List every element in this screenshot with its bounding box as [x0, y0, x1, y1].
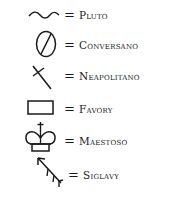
equals-sign: = — [64, 7, 75, 22]
cross-diagonal-icon — [30, 62, 54, 92]
legend-label-text: Favory — [79, 103, 113, 115]
legend-label: =Maestoso — [64, 135, 127, 147]
arrow-feathered-icon — [35, 156, 65, 188]
equals-sign: = — [64, 133, 75, 148]
legend-label-text: Maestoso — [79, 135, 127, 147]
legend-label: =Pluto — [64, 9, 108, 21]
crown-icon — [23, 121, 58, 154]
circle-slash-icon — [35, 30, 57, 58]
legend-label: =Siglavy — [68, 169, 119, 181]
legend-label-text: Siglavy — [83, 169, 119, 181]
equals-sign: = — [68, 167, 79, 182]
equals-sign: = — [64, 68, 75, 83]
legend-label: =Neapolitano — [64, 70, 140, 82]
equals-sign: = — [64, 37, 75, 52]
legend-label-text: Conversano — [79, 39, 138, 51]
legend-label: =Conversano — [64, 39, 138, 51]
rectangle-icon — [27, 100, 55, 116]
legend-label: =Favory — [64, 103, 113, 115]
legend-label-text: Neapolitano — [79, 70, 140, 82]
legend-label-text: Pluto — [79, 9, 108, 21]
equals-sign: = — [64, 101, 75, 116]
wave-icon — [28, 10, 60, 22]
lipizzaner-sire-line-legend: =Pluto =Conversano =Neapolitano =Favory — [0, 0, 178, 197]
